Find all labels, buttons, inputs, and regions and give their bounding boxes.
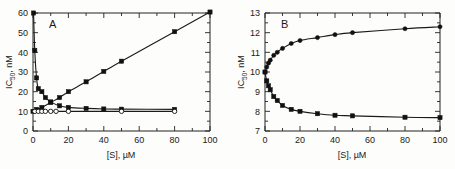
ytick-label: 50 [18,28,28,38]
data-point-marker [272,53,276,57]
data-point-marker [272,94,276,98]
data-point-marker [172,109,176,113]
data-point-marker [350,31,354,35]
figure-container: 020406080100 0102030405060 A [S], µM IC5… [0,0,455,169]
data-point-marker [66,109,70,113]
data-point-marker [403,27,407,31]
panel-b-xlabel-main: [S], [338,150,354,160]
panel-a: 020406080100 0102030405060 A [S], µM IC5… [0,0,227,169]
data-point-marker [43,109,47,113]
data-point-marker [298,109,302,113]
xtick-label: 40 [330,135,340,145]
panel-b-yticklabels: 78910111213 [250,8,260,136]
panel-a-series [31,10,212,114]
data-point-marker [43,95,47,99]
panel-b-ylabel-tail: , nM [236,55,246,73]
panel-b-xaxis-title: [S], µM [338,150,367,160]
data-point-marker [33,48,37,52]
xtick-label: 100 [202,135,217,145]
xtick-label: 20 [295,135,305,145]
xtick-label: 20 [63,135,73,145]
svg-text:IC50, nM: IC50, nM [236,55,248,89]
ytick-label: 7 [255,126,260,136]
panel-b-letter: B [281,18,288,30]
ytick-label: 12 [250,28,260,38]
data-point-marker [49,109,53,113]
data-point-marker [102,107,106,111]
data-point-marker [34,76,38,80]
data-point-marker [173,30,177,34]
data-point-marker [265,65,269,69]
data-point-marker [57,95,61,99]
xtick-label: 60 [365,135,375,145]
ytick-label: 8 [255,107,260,117]
panel-a-xaxis-title: [S], µM [107,150,136,160]
ytick-label: 10 [250,67,260,77]
data-point-marker [275,98,279,102]
data-point-marker [102,69,106,73]
data-point-marker [57,104,61,108]
data-point-marker [280,103,284,107]
ytick-label: 20 [18,87,28,97]
data-point-marker [438,25,442,29]
panel-a-xlabel-main: [S], [107,150,123,160]
ytick-label: 60 [18,8,28,18]
data-point-marker [265,79,269,83]
panel-b: 020406080100 78910111213 B [S], µM IC50,… [227,0,454,169]
svg-text:[S], µM: [S], µM [338,150,367,160]
panel-b-xlabel-unit: µM [354,150,367,160]
data-point-marker [119,59,123,63]
ytick-label: 40 [18,48,28,58]
data-point-marker [66,90,70,94]
data-point-marker [84,80,88,84]
xtick-label: 0 [262,135,267,145]
data-point-marker [315,35,319,39]
panel-a-ylabel-tail: , nM [4,55,14,73]
xtick-label: 40 [99,135,109,145]
data-point-marker [54,109,58,113]
panel-a-xlabel-unit: µM [123,150,136,160]
panel-b-series [263,25,442,120]
panel-a-xticklabels: 020406080100 [30,135,217,145]
xtick-label: 100 [432,135,447,145]
data-point-marker [49,100,53,104]
data-point-marker [208,10,212,14]
data-point-marker [289,107,293,111]
panel-a-yaxis-title: IC50, nM [4,55,16,89]
panel-b-xticklabels: 020406080100 [262,135,447,145]
xtick-label: 0 [30,135,35,145]
data-point-marker [289,41,293,45]
data-point-marker [333,113,337,117]
panel-b-plot: 020406080100 78910111213 B [S], µM IC50,… [227,0,454,169]
data-point-marker [40,90,44,94]
ytick-label: 0 [23,126,28,136]
svg-text:IC50, nM: IC50, nM [4,55,16,89]
ytick-label: 9 [255,87,260,97]
panel-a-letter: A [49,18,57,30]
data-point-marker [280,46,284,50]
data-point-marker [315,112,319,116]
data-point-marker [84,106,88,110]
data-point-marker [268,58,272,62]
ytick-label: 11 [251,48,260,58]
ytick-label: 13 [250,8,260,18]
data-point-marker [263,70,267,74]
svg-text:[S], µM: [S], µM [107,150,136,160]
panel-a-yticklabels: 0102030405060 [18,8,28,136]
data-point-marker [275,50,279,54]
ytick-label: 30 [18,67,28,77]
panel-a-plot: 020406080100 0102030405060 A [S], µM IC5… [0,0,227,169]
ytick-label: 10 [18,107,28,117]
data-point-marker [119,109,123,113]
xtick-label: 80 [400,135,410,145]
xtick-label: 80 [170,135,180,145]
data-point-marker [438,116,442,120]
data-point-marker [31,11,35,15]
data-point-marker [268,88,272,92]
xtick-label: 60 [134,135,144,145]
data-point-marker [266,84,270,88]
data-point-marker [298,38,302,42]
data-point-marker [333,33,337,37]
panel-b-yaxis-title: IC50, nM [236,55,248,89]
data-point-marker [403,115,407,119]
